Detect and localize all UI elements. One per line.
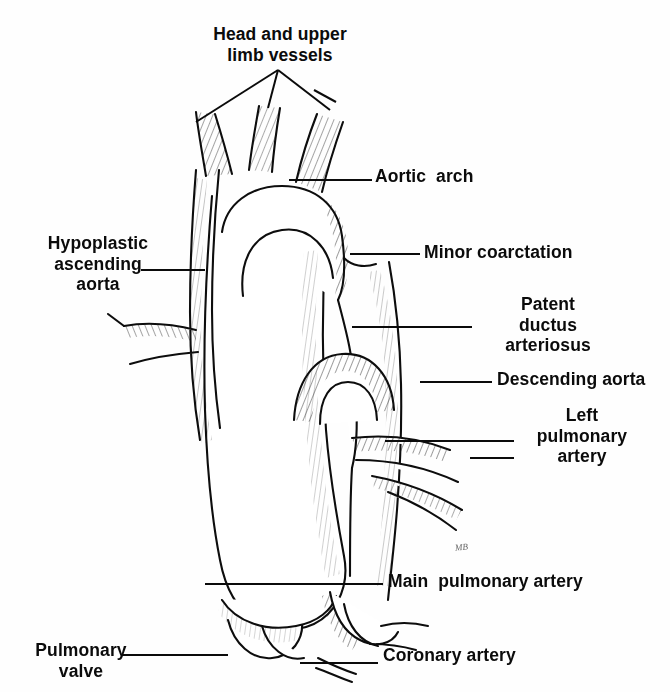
- label-left-pulmonary-artery: Left pulmonary artery: [518, 405, 646, 467]
- label-minor-coarctation: Minor coarctation: [424, 242, 573, 263]
- left-pulmonary-artery-lower: [356, 460, 458, 482]
- minor-coarctation-notch: [344, 258, 376, 266]
- label-head-and-upper-limb-vessels: Head and upper limb vessels: [190, 24, 370, 65]
- vessel-outlines: [108, 106, 462, 682]
- anatomical-figure: Head and upper limb vessels Aortic arch …: [0, 0, 670, 692]
- label-aortic-arch: Aortic arch: [375, 166, 473, 187]
- shade-carotid: [249, 106, 280, 172]
- artist-signature: MB: [455, 542, 469, 552]
- label-descending-aorta: Descending aorta: [497, 369, 645, 390]
- shade-brachiocephalic: [196, 112, 232, 176]
- label-hypoplastic-ascending-aorta: Hypoplastic ascending aorta: [28, 233, 168, 295]
- label-main-pulmonary-artery: Main pulmonary artery: [388, 571, 583, 592]
- label-pulmonary-valve: Pulmonary valve: [18, 640, 144, 681]
- label-patent-ductus-arteriosus: Patent ductus arteriosus: [478, 294, 618, 356]
- descending-aorta-continuation: [350, 468, 352, 576]
- right-pulmonary-artery-tip: [108, 314, 124, 326]
- coronary-artery: [381, 623, 428, 626]
- label-coronary-artery: Coronary artery: [383, 645, 516, 666]
- right-pulmonary-artery-lower: [130, 352, 198, 364]
